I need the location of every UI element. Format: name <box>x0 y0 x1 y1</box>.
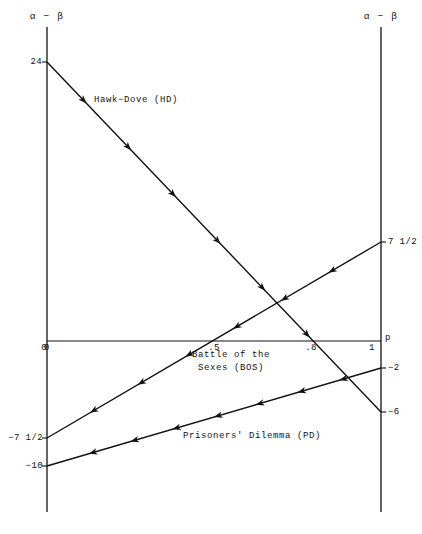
left-tick-label-24: 24 <box>0 57 42 67</box>
arrowhead-bos-5 <box>279 294 290 304</box>
arrowhead-pd-6 <box>297 387 307 396</box>
right-axis-name-label: α − β <box>351 12 411 22</box>
arrowhead-bos-1 <box>88 406 99 416</box>
series-line-prisoners-dilemma <box>47 368 381 466</box>
arrowhead-bos-4 <box>231 322 242 332</box>
left-tick-label-neg-10: −10 <box>0 461 43 471</box>
series-line-battle-of-sexes <box>47 242 381 438</box>
series-label-prisoners-dilemma: Prisoners' Dilemma (PD) <box>183 431 321 441</box>
x-tick-label-1: 1 <box>361 343 383 353</box>
x-tick-label-0: 0 <box>36 343 58 353</box>
left-axis-name-label: α − β <box>17 12 77 22</box>
arrowhead-pd-1 <box>88 448 98 457</box>
arrowhead-bos-6 <box>327 266 338 276</box>
right-tick-label-neg-6: −6 <box>388 407 400 417</box>
series-label-battle-of-sexes-line2: Sexes (BOS) <box>176 363 286 373</box>
series-label-hawk-dove: Hawk−Dove (HD) <box>94 95 178 105</box>
arrowhead-pd-4 <box>213 412 223 421</box>
arrowhead-pd-2 <box>130 436 140 445</box>
arrowhead-bos-2 <box>136 378 147 388</box>
chart-figure: α − β α − β 24 0 −7 1/2 −10 7 1/2 −2 −6 … <box>0 0 422 534</box>
chart-canvas <box>0 0 422 534</box>
left-tick-label-neg-7-and-half: −7 1/2 <box>0 433 43 443</box>
right-tick-label-7-and-half: 7 1/2 <box>388 237 417 247</box>
right-tick-label-neg-2: −2 <box>388 363 400 373</box>
series-label-battle-of-sexes-line1: Battle of the <box>176 350 286 360</box>
x-tick-label-point-8: .8 <box>300 343 322 353</box>
arrowhead-pd-5 <box>255 399 265 408</box>
arrowhead-pd-3 <box>171 424 181 433</box>
x-axis-name-label: p <box>385 333 391 343</box>
